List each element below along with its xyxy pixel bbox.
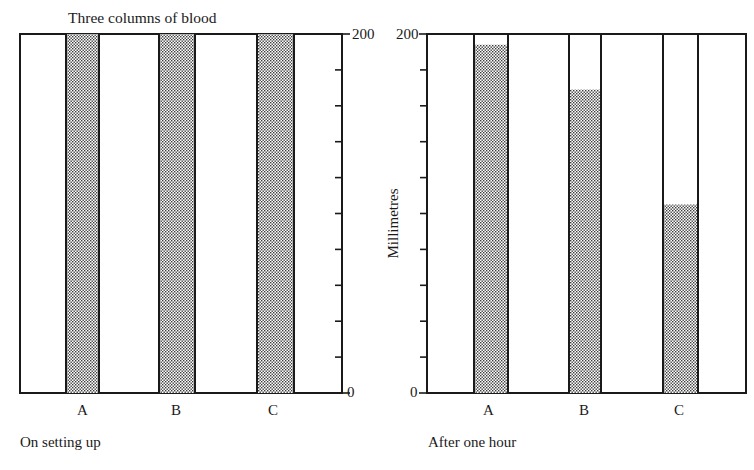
- figure-title: Three columns of blood: [68, 9, 217, 27]
- sediment-fill: [159, 34, 195, 393]
- sediment-fill: [569, 90, 601, 393]
- blood-column-c: [257, 34, 294, 393]
- right-panel-caption: After one hour: [428, 434, 516, 451]
- blood-column-b: [569, 34, 601, 393]
- blood-column-a: [66, 34, 99, 393]
- right-column-label-b: B: [579, 402, 589, 419]
- left-panel-caption: On setting up: [20, 434, 101, 451]
- diagram-canvas: [0, 0, 754, 470]
- right-y-tick-200: 200: [396, 26, 419, 42]
- right-column-label-c: C: [674, 402, 684, 419]
- right-column-label-a: A: [483, 402, 494, 419]
- sediment-fill: [257, 34, 294, 393]
- left-y-tick-200: 200: [352, 26, 375, 42]
- panel-on-setting-up: [20, 34, 350, 393]
- left-column-label-c: C: [268, 402, 278, 419]
- right-y-tick-0: 0: [410, 384, 418, 400]
- sediment-fill: [663, 205, 698, 393]
- left-column-label-a: A: [77, 402, 88, 419]
- panel-after-one-hour: [419, 34, 746, 393]
- blood-column-b: [159, 34, 195, 393]
- left-column-label-b: B: [171, 402, 181, 419]
- sediment-fill: [66, 34, 99, 393]
- left-y-tick-0: 0: [347, 384, 355, 400]
- y-axis-title: Millimetres: [385, 184, 402, 264]
- blood-column-a: [474, 34, 508, 393]
- blood-column-c: [663, 34, 698, 393]
- sediment-fill: [474, 45, 508, 393]
